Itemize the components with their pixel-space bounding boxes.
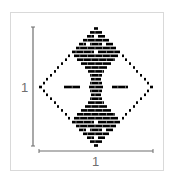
brick-joint — [83, 51, 84, 54]
brick-segment — [57, 66, 59, 69]
pattern-row — [54, 101, 138, 104]
brick-joint — [83, 129, 84, 132]
brick-joint — [95, 31, 96, 34]
brick-joint — [110, 125, 111, 128]
brick-segment — [81, 109, 111, 112]
brick-segment — [88, 101, 104, 104]
brick-segment — [125, 58, 127, 61]
brick-segment — [83, 39, 109, 42]
brick-joint — [79, 55, 80, 58]
brick-joint — [98, 66, 99, 69]
pattern-row — [68, 117, 124, 120]
brick-joint — [76, 121, 77, 124]
brick-segment — [85, 66, 107, 69]
brick-segment — [79, 43, 86, 46]
pattern-row — [39, 86, 153, 89]
brick-joint — [87, 62, 88, 65]
brick-joint — [87, 117, 88, 120]
pattern-row — [83, 39, 109, 42]
brick-segment — [68, 55, 70, 58]
brick-segment — [106, 43, 113, 46]
brick-segment — [129, 62, 131, 65]
pattern-row — [65, 58, 127, 61]
pattern-row — [46, 94, 146, 97]
brick-joint — [95, 86, 96, 89]
brick-segment — [88, 70, 104, 73]
brick-segment — [122, 117, 124, 120]
brick-segment — [140, 97, 142, 100]
brick-segment — [94, 144, 98, 147]
brick-joint — [98, 113, 99, 116]
pattern-row — [54, 70, 138, 73]
brick-joint — [91, 51, 92, 54]
brick-segment — [46, 78, 48, 81]
pattern-row — [50, 97, 142, 100]
brick-joint — [110, 55, 111, 58]
brick-segment — [91, 78, 101, 81]
brick-joint — [95, 78, 96, 81]
brick-joint — [83, 121, 84, 124]
brick-segment — [87, 35, 94, 38]
brick-segment — [61, 109, 63, 112]
brick-joint — [95, 117, 96, 120]
brick-joint — [72, 86, 73, 89]
pattern-row — [87, 136, 105, 139]
brick-joint — [106, 121, 107, 124]
pattern-row — [79, 129, 113, 132]
brick-segment — [144, 78, 146, 81]
brick-segment — [90, 97, 102, 100]
brick-joint — [79, 125, 80, 128]
brick-joint — [106, 58, 107, 61]
brick-segment — [91, 94, 101, 97]
brick-joint — [87, 109, 88, 112]
brick-joint — [83, 58, 84, 61]
brick-joint — [91, 136, 92, 139]
brick-segment — [77, 58, 115, 61]
brick-segment — [81, 62, 111, 65]
brick-segment — [90, 82, 102, 85]
brick-joint — [76, 51, 77, 54]
brick-segment — [147, 90, 149, 93]
brick-joint — [102, 47, 103, 50]
brick-joint — [91, 105, 92, 108]
pattern-row — [83, 133, 109, 136]
brick-joint — [102, 55, 103, 58]
brick-segment — [106, 129, 113, 132]
brick-segment — [94, 27, 98, 30]
brick-segment — [136, 70, 138, 73]
pattern-row — [79, 43, 113, 46]
brick-joint — [106, 51, 107, 54]
brick-segment — [68, 117, 70, 120]
brick-segment — [65, 113, 67, 116]
brick-segment — [39, 86, 42, 89]
brick-segment — [122, 55, 124, 58]
brick-segment — [54, 101, 56, 104]
brick-segment — [147, 82, 149, 85]
brick-segment — [125, 113, 127, 116]
brick-joint — [87, 133, 88, 136]
pattern-row — [46, 78, 146, 81]
brick-segment — [129, 109, 131, 112]
pattern-row — [43, 82, 149, 85]
pattern-row — [76, 125, 116, 128]
pattern-row — [94, 27, 98, 30]
pattern-row — [94, 144, 98, 147]
brick-joint — [79, 117, 80, 120]
brick-segment — [98, 35, 105, 38]
brick-joint — [98, 90, 99, 93]
brick-joint — [102, 70, 103, 73]
brick-segment — [133, 105, 135, 108]
pattern-row — [43, 90, 149, 93]
brick-joint — [110, 47, 111, 50]
brick-segment — [89, 86, 103, 89]
brick-segment — [61, 62, 63, 65]
brick-joint — [98, 97, 99, 100]
pattern-row — [90, 140, 102, 143]
pattern-row — [72, 121, 120, 124]
brick-segment — [136, 101, 138, 104]
brick-segment — [140, 74, 142, 77]
brick-segment — [57, 105, 59, 108]
brick-joint — [98, 58, 99, 61]
brick-joint — [87, 125, 88, 128]
brick-joint — [114, 113, 115, 116]
